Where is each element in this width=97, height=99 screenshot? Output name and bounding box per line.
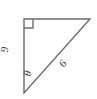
triangle-drawing bbox=[0, 0, 97, 99]
right-triangle-diagram: 9 6 θ bbox=[0, 0, 97, 99]
triangle-outline bbox=[24, 19, 90, 93]
right-angle-marker-icon bbox=[24, 19, 33, 28]
side-label-vertical-leg: 9 bbox=[0, 47, 10, 53]
